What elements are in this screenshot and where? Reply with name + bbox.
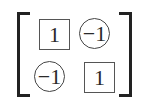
matrix-cell-r2c1: −1	[34, 61, 65, 92]
right-bracket	[119, 12, 132, 97]
matrix-cell-r2c2: 1	[84, 62, 115, 93]
matrix-cell-r1c2: −1	[79, 18, 110, 49]
left-bracket	[17, 12, 30, 97]
matrix-cell-r1c1: 1	[39, 19, 70, 50]
